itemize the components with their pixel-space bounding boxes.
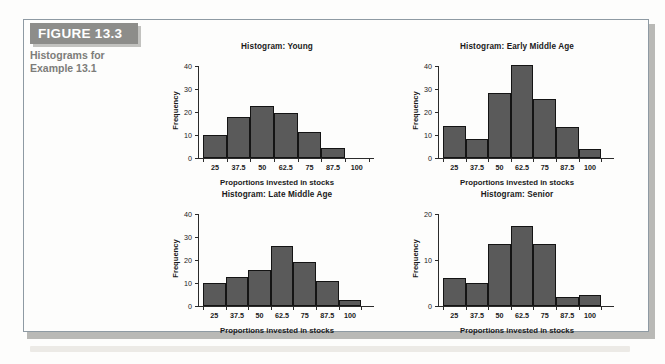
- y-tick-label-early-middle-age-0: 0: [408, 154, 432, 163]
- x-axis-title-young: Proportions invested in stocks: [152, 178, 402, 187]
- x-tick-late-middle-age-0: [203, 307, 204, 310]
- x-tick-late-middle-age-end: [361, 307, 362, 310]
- bar-late-middle-age-2: [248, 270, 271, 306]
- x-axis-title-senior: Proportions invested in stocks: [392, 326, 642, 335]
- y-tick-early-middle-age-4: [435, 66, 438, 67]
- background-text-ghost: [30, 346, 630, 352]
- x-tick-early-middle-age-3: [511, 159, 512, 162]
- bar-senior-3: [511, 226, 534, 307]
- bar-young-0: [203, 135, 227, 158]
- y-tick-young-3: [195, 89, 198, 90]
- y-tick-senior-0: [435, 306, 438, 307]
- x-tick-young-3: [274, 159, 275, 162]
- x-tick-label-early-middle-age-6: 100: [576, 163, 604, 172]
- x-tick-young-end: [369, 159, 370, 162]
- y-tick-young-4: [195, 66, 198, 67]
- bar-young-2: [250, 106, 274, 158]
- y-tick-late-middle-age-1: [195, 283, 198, 284]
- x-tick-late-middle-age-4: [293, 307, 294, 310]
- bar-early-middle-age-6: [579, 149, 602, 158]
- x-tick-senior-0: [443, 307, 444, 310]
- x-tick-label-late-middle-age-6: 100: [336, 311, 364, 320]
- y-axis-title-late-middle-age: Frequency: [171, 224, 180, 294]
- x-tick-early-middle-age-5: [556, 159, 557, 162]
- x-axis-title-early-middle-age: Proportions invested in stocks: [392, 178, 642, 187]
- bar-early-middle-age-1: [466, 139, 489, 159]
- bar-senior-4: [533, 244, 556, 306]
- x-tick-early-middle-age-6: [579, 159, 580, 162]
- y-axis-line-early-middle-age: [438, 66, 439, 159]
- bar-senior-5: [556, 297, 579, 306]
- x-tick-late-middle-age-5: [316, 307, 317, 310]
- y-tick-senior-2: [435, 214, 438, 215]
- y-tick-label-late-middle-age-0: 0: [168, 302, 192, 311]
- x-tick-senior-1: [466, 307, 467, 310]
- y-tick-label-late-middle-age-4: 40: [168, 210, 192, 219]
- chart-senior: Histogram: Senior010202537.55062.57587.5…: [392, 190, 642, 340]
- bar-early-middle-age-3: [511, 65, 534, 158]
- bar-senior-6: [579, 295, 602, 306]
- x-tick-late-middle-age-3: [271, 307, 272, 310]
- x-axis-line-young: [198, 158, 374, 159]
- bar-late-middle-age-0: [203, 283, 226, 306]
- chart-title-early-middle-age: Histogram: Early Middle Age: [392, 42, 642, 51]
- y-tick-early-middle-age-2: [435, 112, 438, 113]
- y-tick-early-middle-age-1: [435, 135, 438, 136]
- bar-young-3: [274, 113, 298, 158]
- y-tick-label-young-4: 40: [168, 62, 192, 71]
- x-tick-late-middle-age-1: [226, 307, 227, 310]
- chart-title-senior: Histogram: Senior: [392, 190, 642, 199]
- bar-young-4: [298, 132, 322, 159]
- x-tick-label-senior-6: 100: [576, 311, 604, 320]
- x-tick-young-4: [298, 159, 299, 162]
- bar-senior-0: [443, 278, 466, 306]
- x-tick-young-6: [345, 159, 346, 162]
- y-tick-late-middle-age-4: [195, 214, 198, 215]
- x-tick-early-middle-age-1: [466, 159, 467, 162]
- x-tick-senior-end: [601, 307, 602, 310]
- x-tick-early-middle-age-2: [488, 159, 489, 162]
- x-tick-young-5: [321, 159, 322, 162]
- x-tick-young-1: [227, 159, 228, 162]
- y-tick-label-young-0: 0: [168, 154, 192, 163]
- bar-early-middle-age-4: [533, 99, 556, 158]
- y-tick-label-senior-0: 0: [408, 302, 432, 311]
- y-tick-young-0: [195, 158, 198, 159]
- y-axis-line-late-middle-age: [198, 214, 199, 307]
- y-tick-young-1: [195, 135, 198, 136]
- x-tick-senior-5: [556, 307, 557, 310]
- x-tick-early-middle-age-4: [533, 159, 534, 162]
- bar-early-middle-age-0: [443, 126, 466, 158]
- y-tick-late-middle-age-3: [195, 237, 198, 238]
- y-axis-title-young: Frequency: [171, 76, 180, 146]
- y-tick-late-middle-age-0: [195, 306, 198, 307]
- x-tick-late-middle-age-6: [339, 307, 340, 310]
- y-tick-young-2: [195, 112, 198, 113]
- x-axis-line-late-middle-age: [198, 306, 374, 307]
- bar-late-middle-age-4: [293, 262, 316, 306]
- x-tick-late-middle-age-2: [248, 307, 249, 310]
- y-axis-line-young: [198, 66, 199, 159]
- x-tick-young-2: [250, 159, 251, 162]
- y-tick-late-middle-age-2: [195, 260, 198, 261]
- page-root: FIGURE 13.3 Histograms for Example 13.1 …: [0, 0, 665, 364]
- y-tick-early-middle-age-0: [435, 158, 438, 159]
- bar-late-middle-age-1: [226, 277, 249, 306]
- bar-senior-2: [488, 244, 511, 306]
- x-tick-senior-3: [511, 307, 512, 310]
- chart-young: Histogram: Young0102030402537.55062.5758…: [152, 42, 402, 192]
- x-tick-senior-2: [488, 307, 489, 310]
- bar-senior-1: [466, 283, 489, 306]
- bar-young-1: [227, 117, 251, 158]
- x-tick-early-middle-age-end: [601, 159, 602, 162]
- bar-late-middle-age-5: [316, 281, 339, 306]
- histogram-grid: Histogram: Young0102030402537.55062.5758…: [24, 20, 648, 331]
- x-tick-senior-6: [579, 307, 580, 310]
- chart-early-middle-age: Histogram: Early Middle Age0102030402537…: [392, 42, 642, 192]
- y-axis-title-senior: Frequency: [411, 224, 420, 294]
- bar-late-middle-age-3: [271, 246, 294, 306]
- x-axis-line-early-middle-age: [438, 158, 614, 159]
- y-tick-label-senior-2: 20: [408, 210, 432, 219]
- x-axis-title-late-middle-age: Proportions invested in stocks: [152, 326, 402, 335]
- bar-early-middle-age-2: [488, 93, 511, 159]
